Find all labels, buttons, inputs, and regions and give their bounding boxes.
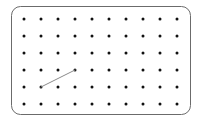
peg-r6-c5[interactable]	[91, 103, 94, 106]
peg-r1-c3[interactable]	[57, 18, 60, 21]
peg-r3-c6[interactable]	[108, 52, 111, 55]
peg-r5-c8[interactable]	[142, 86, 145, 89]
peg-r3-c4[interactable]	[74, 52, 77, 55]
peg-r1-c1[interactable]	[23, 18, 26, 21]
peg-r5-c10[interactable]	[176, 86, 179, 89]
peg-r4-c10[interactable]	[176, 69, 179, 72]
peg-r4-c9[interactable]	[159, 69, 162, 72]
peg-r6-c1[interactable]	[23, 103, 26, 106]
peg-r1-c9[interactable]	[159, 18, 162, 21]
peg-r1-c10[interactable]	[176, 18, 179, 21]
peg-r1-c4[interactable]	[74, 18, 77, 21]
geoboard-figure	[0, 0, 200, 121]
peg-r3-c10[interactable]	[176, 52, 179, 55]
peg-r6-c8[interactable]	[142, 103, 145, 106]
peg-r2-c8[interactable]	[142, 35, 145, 38]
peg-r2-c4[interactable]	[74, 35, 77, 38]
peg-r4-c3[interactable]	[57, 69, 60, 72]
peg-r5-c1[interactable]	[23, 86, 26, 89]
peg-r5-c5[interactable]	[91, 86, 94, 89]
peg-r6-c6[interactable]	[108, 103, 111, 106]
peg-r1-c8[interactable]	[142, 18, 145, 21]
peg-r5-c9[interactable]	[159, 86, 162, 89]
peg-r3-c3[interactable]	[57, 52, 60, 55]
peg-r4-c1[interactable]	[23, 69, 26, 72]
peg-r2-c3[interactable]	[57, 35, 60, 38]
peg-r6-c3[interactable]	[57, 103, 60, 106]
peg-r2-c10[interactable]	[176, 35, 179, 38]
peg-r3-c7[interactable]	[125, 52, 128, 55]
peg-r6-c10[interactable]	[176, 103, 179, 106]
peg-r2-c5[interactable]	[91, 35, 94, 38]
board-frame	[12, 7, 191, 115]
peg-r2-c1[interactable]	[23, 35, 26, 38]
peg-r6-c9[interactable]	[159, 103, 162, 106]
peg-r4-c7[interactable]	[125, 69, 128, 72]
peg-r4-c6[interactable]	[108, 69, 111, 72]
peg-r3-c2[interactable]	[40, 52, 43, 55]
peg-r5-c3[interactable]	[57, 86, 60, 89]
peg-r4-c5[interactable]	[91, 69, 94, 72]
peg-r4-c2[interactable]	[40, 69, 43, 72]
peg-r3-c5[interactable]	[91, 52, 94, 55]
peg-r1-c6[interactable]	[108, 18, 111, 21]
peg-r2-c2[interactable]	[40, 35, 43, 38]
peg-r5-c7[interactable]	[125, 86, 128, 89]
peg-r6-c2[interactable]	[40, 103, 43, 106]
peg-r1-c2[interactable]	[40, 18, 43, 21]
peg-r3-c1[interactable]	[23, 52, 26, 55]
peg-r1-c5[interactable]	[91, 18, 94, 21]
peg-r2-c6[interactable]	[108, 35, 111, 38]
peg-r6-c7[interactable]	[125, 103, 128, 106]
peg-r6-c4[interactable]	[74, 103, 77, 106]
geoboard-svg	[0, 0, 200, 121]
peg-r2-c7[interactable]	[125, 35, 128, 38]
peg-r3-c9[interactable]	[159, 52, 162, 55]
peg-r5-c6[interactable]	[108, 86, 111, 89]
peg-r2-c9[interactable]	[159, 35, 162, 38]
peg-r5-c4[interactable]	[74, 86, 77, 89]
peg-r4-c8[interactable]	[142, 69, 145, 72]
peg-r1-c7[interactable]	[125, 18, 128, 21]
peg-r3-c8[interactable]	[142, 52, 145, 55]
